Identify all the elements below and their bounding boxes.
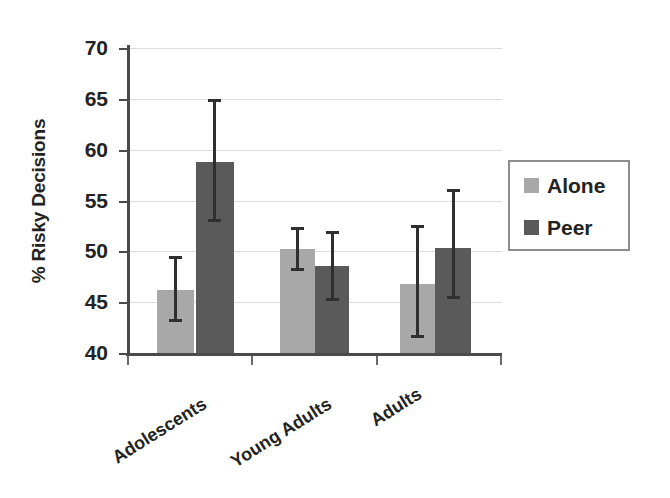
errorbar-young-adults-peer-line	[331, 231, 334, 301]
y-tick-mark-60	[119, 150, 128, 152]
errorbar-adults-alone-cap-top	[411, 225, 424, 228]
errorbar-young-adults-alone-cap-bottom	[291, 268, 304, 271]
errorbar-adults-peer-line	[452, 189, 455, 299]
y-tick-mark-70	[119, 48, 128, 50]
errorbar-young-adults-alone-line	[296, 227, 299, 271]
errorbar-adolescents-alone-line	[174, 256, 177, 321]
y-tick-label-60: 60	[62, 139, 108, 160]
legend-label-alone: Alone	[547, 175, 605, 196]
y-axis-line	[127, 45, 130, 355]
gridline-55	[127, 201, 502, 202]
errorbar-young-adults-alone-cap-top	[291, 227, 304, 230]
x-tick-label-adolescents: Adolescents	[72, 394, 210, 491]
x-tick-mark-0	[127, 356, 129, 365]
x-tick-label-young-adults: Young Adults	[197, 394, 335, 491]
y-tick-mark-50	[119, 251, 128, 253]
legend: Alone Peer	[508, 160, 630, 251]
y-tick-mark-55	[119, 201, 128, 203]
x-axis-line	[126, 353, 502, 356]
legend-item-peer[interactable]: Peer	[524, 217, 593, 238]
y-tick-label-65: 65	[62, 88, 108, 109]
y-tick-label-70: 70	[62, 37, 108, 58]
errorbar-adults-peer-cap-top	[447, 189, 460, 192]
y-tick-label-55: 55	[62, 190, 108, 211]
legend-item-alone[interactable]: Alone	[524, 175, 605, 196]
y-axis-title: % Risky Decisions	[28, 96, 50, 306]
y-tick-label-40: 40	[62, 342, 108, 363]
errorbar-adolescents-peer-line	[213, 99, 216, 221]
plot-area	[127, 45, 502, 355]
legend-label-peer: Peer	[547, 217, 593, 238]
y-tick-mark-40	[119, 353, 128, 355]
errorbar-adolescents-alone-cap-top	[169, 256, 182, 259]
x-tick-mark-1	[251, 356, 253, 365]
errorbar-adolescents-peer-cap-top	[208, 99, 221, 102]
bar-chart-figure: % Risky Decisions	[0, 0, 670, 498]
errorbar-young-adults-peer-cap-bottom	[326, 298, 339, 301]
errorbar-adults-alone-line	[416, 225, 419, 338]
x-tick-mark-3	[500, 356, 502, 365]
errorbar-adolescents-peer-cap-bottom	[208, 219, 221, 222]
gridline-65	[127, 99, 502, 100]
legend-swatch-peer-icon	[524, 220, 539, 235]
y-tick-label-45: 45	[62, 291, 108, 312]
errorbar-adults-alone-cap-bottom	[411, 335, 424, 338]
x-tick-label-adults: Adults	[330, 384, 426, 455]
gridline-70	[127, 48, 502, 49]
errorbar-adults-peer-cap-bottom	[447, 296, 460, 299]
gridline-60	[127, 150, 502, 151]
x-tick-mark-2	[376, 356, 378, 365]
y-tick-label-50: 50	[62, 240, 108, 261]
legend-swatch-alone-icon	[524, 178, 539, 193]
y-tick-mark-45	[119, 302, 128, 304]
errorbar-young-adults-peer-cap-top	[326, 231, 339, 234]
y-tick-mark-65	[119, 99, 128, 101]
errorbar-adolescents-alone-cap-bottom	[169, 319, 182, 322]
